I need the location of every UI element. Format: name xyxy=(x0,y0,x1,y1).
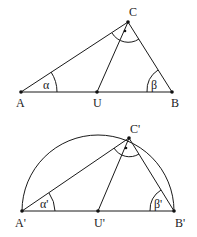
label-A: A xyxy=(16,96,25,110)
figure-triangle: A U B C α β xyxy=(16,5,179,110)
point-U xyxy=(95,90,99,94)
angle-arc-C-prime xyxy=(114,148,139,157)
label-beta-prime: β' xyxy=(154,197,162,211)
figure-semicircle: A' U' B' C' α' β' xyxy=(15,122,185,230)
label-B-prime: B' xyxy=(175,216,185,230)
segment-BC xyxy=(128,22,172,92)
label-A-prime: A' xyxy=(15,216,26,230)
label-C: C xyxy=(129,5,137,19)
label-alpha: α xyxy=(43,78,50,92)
point-U-prime xyxy=(96,209,100,213)
label-C-prime: C' xyxy=(130,122,140,136)
segment-AC xyxy=(21,22,128,92)
angle-dot-C xyxy=(124,30,127,33)
angle-arc-alpha xyxy=(51,72,57,92)
angle-arc-C xyxy=(112,33,139,42)
point-C-prime xyxy=(127,136,131,140)
point-B-prime xyxy=(172,209,176,213)
geometry-diagram: A U B C α β A' U' B' C' α' β' xyxy=(0,0,197,237)
point-B xyxy=(170,90,174,94)
label-beta: β xyxy=(151,78,157,92)
segment-A'C' xyxy=(22,138,129,211)
label-B: B xyxy=(171,96,179,110)
angle-dot-C-prime xyxy=(125,147,128,150)
angle-arc-alpha-prime xyxy=(49,193,55,211)
point-C xyxy=(126,20,130,24)
label-U-prime: U' xyxy=(94,216,105,230)
point-A-prime xyxy=(20,209,24,213)
label-alpha-prime: α' xyxy=(40,197,48,211)
point-A xyxy=(19,90,23,94)
label-U: U xyxy=(93,96,102,110)
